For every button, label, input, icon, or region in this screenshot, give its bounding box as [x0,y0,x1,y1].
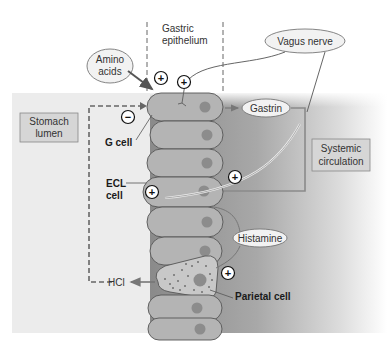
nucleus [192,303,203,314]
stimulation-sign-vagus-g-cell: + [178,76,191,89]
stomach-lumen-label-1: Stomach [29,116,68,127]
nucleus [202,158,213,169]
parietal-cell-label: Parietal cell [235,291,291,302]
plus-icon: + [181,76,187,88]
epithelial-cell [148,295,222,321]
g-cell-label: G cell [105,137,132,148]
epithelial-cells [143,93,223,340]
parietal-cell-nucleus [194,274,207,287]
plus-icon: + [149,186,155,198]
stimulation-sign-gastrin: + [229,171,242,184]
gastrin-label: Gastrin [250,103,282,114]
g-cell-nucleus [200,102,211,113]
nucleus [202,130,213,141]
vagus-nerve-label: Vagus nerve [277,36,333,47]
plus-icon: + [158,72,164,84]
histamine-label: Histamine [238,233,283,244]
plus-icon: + [225,267,231,279]
stimulation-sign-parietal: + [222,267,235,280]
nucleus [200,246,211,257]
nucleus [195,324,206,335]
stimulation-sign-amino: + [155,72,168,85]
gastric-epithelium-label-2: epithelium [162,35,208,46]
ecl-cell-label-2: cell [106,190,123,201]
ecl-cell-label-1: ECL [106,178,126,189]
stimulation-sign-ecl: + [146,186,159,199]
inhibition-sign-hcl: − [122,111,135,124]
gastric-acid-regulation-diagram: Gastric epithelium Stomach lumen Systemi… [0,0,387,350]
epithelial-cell [148,318,222,340]
gastric-epithelium-label-1: Gastric [162,23,194,34]
amino-acids-label-2: acids [98,66,121,77]
stomach-lumen-label-2: lumen [35,128,62,139]
systemic-circulation-label-1: Systemic [321,143,362,154]
hcl-label: HCl [108,277,125,288]
minus-icon: − [125,111,131,123]
amino-acids-label-1: Amino [96,54,125,65]
nucleus [202,217,213,228]
amino-acids-arrow [128,71,152,89]
g-cell [147,93,223,121]
systemic-circulation-label-2: circulation [318,156,363,167]
plus-icon: + [232,171,238,183]
